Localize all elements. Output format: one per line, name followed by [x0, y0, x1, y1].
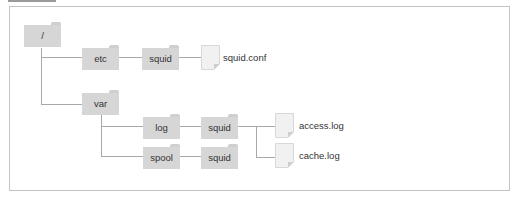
connector-var-vertical — [101, 114, 102, 157]
folder-root[interactable]: / — [24, 22, 61, 47]
file-label-cache-log: cache.log — [299, 150, 340, 161]
connector-root-var — [41, 104, 82, 105]
folder-label: / — [24, 25, 61, 47]
connector-cache-log — [256, 157, 275, 158]
folder-var[interactable]: var — [82, 90, 119, 115]
document-icon — [201, 45, 220, 70]
connector-log-squid — [179, 126, 201, 127]
connector-root-etc — [41, 57, 82, 58]
file-label-squid-conf: squid.conf — [223, 52, 266, 63]
connector-logs-vertical — [256, 126, 257, 158]
connector-etc-squid — [119, 57, 142, 58]
folder-spool[interactable]: spool — [143, 144, 180, 169]
connector-var-spool — [101, 156, 143, 157]
folder-etc-squid[interactable]: squid — [142, 45, 179, 70]
file-cache-log[interactable] — [275, 143, 294, 168]
connector-var-log — [101, 126, 143, 127]
folder-label: spool — [143, 147, 180, 169]
header-tab-bar — [8, 0, 56, 2]
document-icon — [275, 143, 294, 168]
folder-label: squid — [201, 117, 238, 139]
file-access-log[interactable] — [275, 113, 294, 138]
file-squid-conf[interactable] — [201, 45, 220, 70]
connector-squid-conf — [179, 57, 201, 58]
folder-etc[interactable]: etc — [82, 45, 119, 70]
folder-spool-squid[interactable]: squid — [201, 144, 238, 169]
folder-label: squid — [201, 147, 238, 169]
folder-log[interactable]: log — [143, 114, 180, 139]
folder-label: squid — [142, 48, 179, 70]
folder-log-squid[interactable]: squid — [201, 114, 238, 139]
connector-spool-squid — [179, 156, 201, 157]
folder-label: log — [143, 117, 180, 139]
folder-label: etc — [82, 48, 119, 70]
file-label-access-log: access.log — [299, 120, 344, 131]
folder-label: var — [82, 93, 119, 115]
document-icon — [275, 113, 294, 138]
